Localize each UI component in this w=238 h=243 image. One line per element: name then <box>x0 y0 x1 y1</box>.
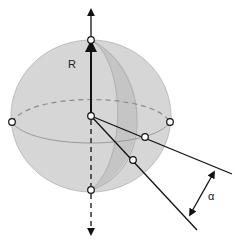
point-equator-right <box>167 119 174 126</box>
point-center <box>88 113 95 120</box>
point-equator-left <box>9 119 16 126</box>
sphere-diagram: R α <box>0 0 238 243</box>
point-ray2-surface <box>130 157 137 164</box>
sphere-diagram-svg <box>0 0 238 243</box>
point-north-pole <box>88 37 95 44</box>
point-ray1-surface <box>142 134 149 141</box>
radius-label: R <box>68 58 76 70</box>
angle-label: α <box>208 190 214 202</box>
point-south-pole <box>88 187 95 194</box>
